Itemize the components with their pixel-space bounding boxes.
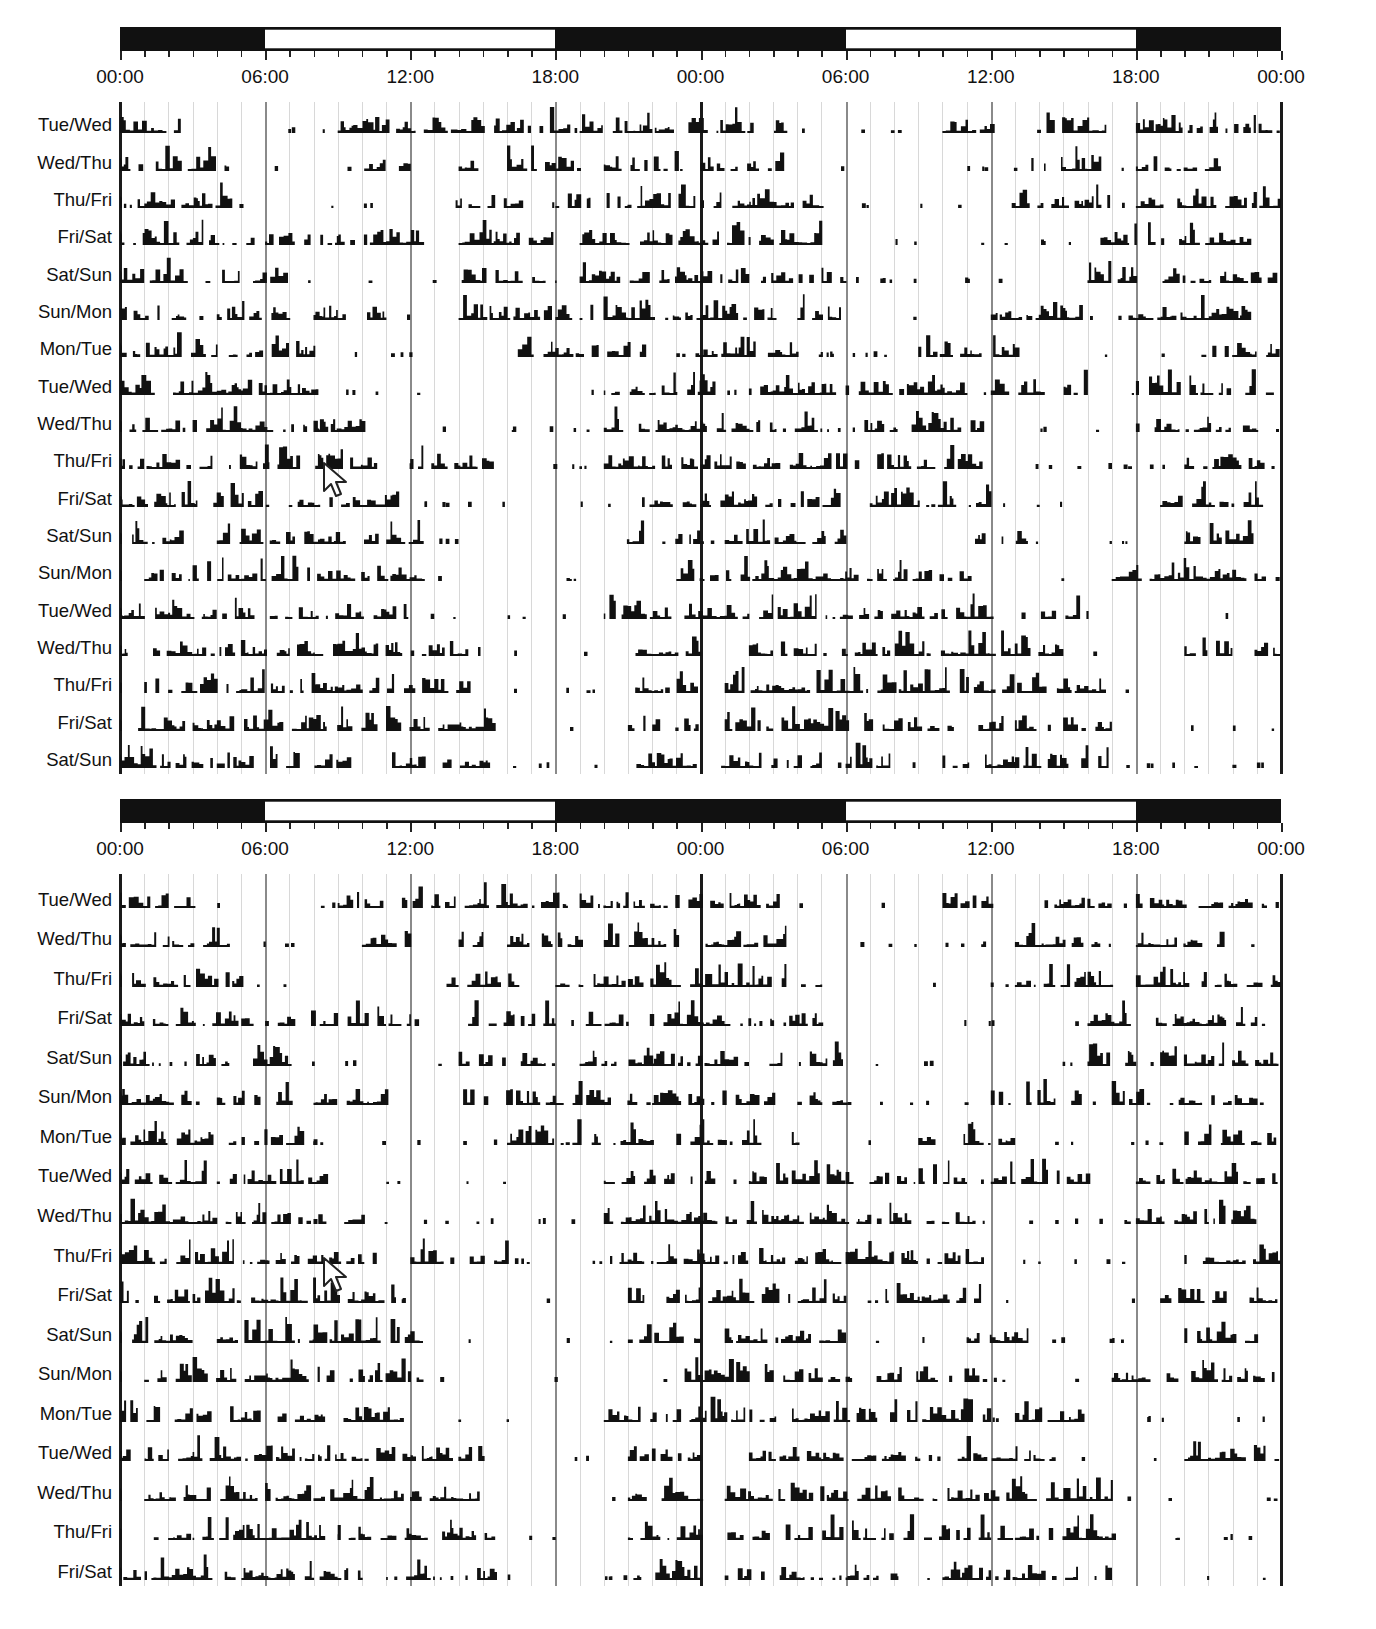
x-tick-label: 18:00 <box>1112 838 1160 860</box>
hour-tick <box>846 51 848 60</box>
x-tick-label: 18:00 <box>532 66 580 88</box>
x-tick-label: 06:00 <box>822 838 870 860</box>
hour-tick <box>773 823 775 829</box>
hour-tick <box>821 823 823 829</box>
row-label: Fri/Sat <box>0 712 112 734</box>
hour-tick <box>1281 823 1283 832</box>
hour-tick <box>1208 51 1210 57</box>
activity-row <box>120 292 1281 322</box>
activity-row <box>120 479 1281 509</box>
hour-tick <box>652 51 654 57</box>
hour-tick <box>217 823 219 829</box>
hour-tick <box>386 823 388 829</box>
hour-tick <box>1208 823 1210 829</box>
activity-row <box>120 1512 1281 1542</box>
hour-tick <box>1039 51 1041 57</box>
hour-tick <box>217 51 219 57</box>
hour-tick <box>676 823 678 829</box>
x-tick-label: 12:00 <box>386 838 434 860</box>
hour-tick <box>1112 51 1114 57</box>
activity-row <box>120 1236 1281 1266</box>
dark-phase <box>120 801 265 821</box>
hour-tick <box>362 51 364 57</box>
hour-tick <box>241 823 243 829</box>
activity-row <box>120 1433 1281 1463</box>
hour-tick <box>144 51 146 57</box>
hour-tick <box>265 51 267 60</box>
hour-tick <box>1184 823 1186 829</box>
hour-tick <box>338 823 340 829</box>
row-label: Wed/Thu <box>0 1205 112 1227</box>
hour-tick <box>410 823 412 832</box>
x-tick-label: 06:00 <box>241 838 289 860</box>
activity-row <box>120 665 1281 695</box>
hour-tick <box>555 51 557 60</box>
hour-tick <box>241 51 243 57</box>
row-label: Tue/Wed <box>0 1442 112 1464</box>
row-label: Wed/Thu <box>0 928 112 950</box>
row-label: Wed/Thu <box>0 637 112 659</box>
hour-tick <box>1063 51 1065 57</box>
hour-tick <box>120 51 122 60</box>
row-label: Fri/Sat <box>0 1284 112 1306</box>
activity-row <box>120 441 1281 471</box>
x-tick-label: 12:00 <box>967 66 1015 88</box>
activity-plot <box>120 874 1281 1586</box>
hour-tick <box>918 51 920 57</box>
hour-tick <box>1112 823 1114 829</box>
hour-tick <box>604 51 606 57</box>
hour-tick <box>580 51 582 57</box>
activity-row <box>120 1275 1281 1305</box>
row-label: Sat/Sun <box>0 525 112 547</box>
row-label: Mon/Tue <box>0 338 112 360</box>
hour-tick <box>410 51 412 60</box>
hour-tick <box>1088 51 1090 57</box>
light-dark-bar <box>120 799 1281 823</box>
row-label: Sun/Mon <box>0 562 112 584</box>
x-tick-label: 00:00 <box>1257 838 1305 860</box>
hour-tick <box>434 51 436 57</box>
hour-tick <box>846 823 848 832</box>
activity-row <box>120 591 1281 621</box>
mouse-cursor-icon <box>322 1256 350 1296</box>
hour-tick <box>870 51 872 57</box>
row-label: Sat/Sun <box>0 264 112 286</box>
row-label: Sat/Sun <box>0 1324 112 1346</box>
hour-tick <box>507 823 509 829</box>
activity-row <box>120 105 1281 135</box>
light-dark-bar <box>120 27 1281 51</box>
hour-tick <box>701 823 703 832</box>
x-tick-label: 00:00 <box>1257 66 1305 88</box>
activity-row <box>120 740 1281 770</box>
row-label: Sun/Mon <box>0 1086 112 1108</box>
hour-tick <box>652 823 654 829</box>
hour-tick <box>507 51 509 57</box>
row-label: Thu/Fri <box>0 189 112 211</box>
hour-tick <box>701 51 703 60</box>
activity-row <box>120 959 1281 989</box>
row-label: Wed/Thu <box>0 152 112 174</box>
activity-row <box>120 367 1281 397</box>
hour-tick <box>676 51 678 57</box>
x-tick-label: 12:00 <box>967 838 1015 860</box>
hour-tick <box>289 51 291 57</box>
mouse-cursor-icon <box>322 461 350 501</box>
row-label: Thu/Fri <box>0 1245 112 1267</box>
hour-tick <box>797 823 799 829</box>
light-phase <box>846 29 1136 49</box>
hour-tick <box>1257 823 1259 829</box>
hour-tick <box>265 823 267 832</box>
hour-tick <box>338 51 340 57</box>
hour-tick <box>749 823 751 829</box>
activity-row <box>120 1117 1281 1147</box>
row-label: Sat/Sun <box>0 749 112 771</box>
x-tick-label: 00:00 <box>96 66 144 88</box>
activity-row <box>120 1196 1281 1226</box>
activity-row <box>120 703 1281 733</box>
light-phase <box>265 801 555 821</box>
hour-tick <box>1184 51 1186 57</box>
hour-tick <box>1160 823 1162 829</box>
row-label: Fri/Sat <box>0 226 112 248</box>
hour-ticks <box>120 823 1281 831</box>
row-label: Fri/Sat <box>0 1007 112 1029</box>
